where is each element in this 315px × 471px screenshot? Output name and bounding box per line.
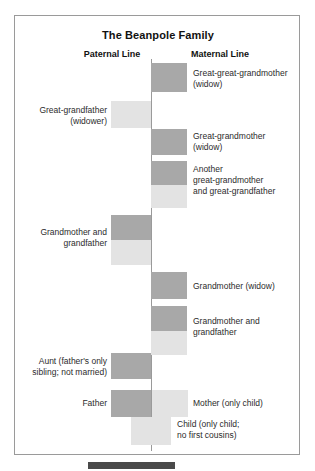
label-great-grandmother-line1: Great-grandmother	[193, 131, 305, 142]
label-paternal-grandparents-line2: grandfather	[15, 238, 107, 249]
label-father: Father	[15, 398, 107, 409]
bar-mother	[152, 390, 188, 417]
column-header-maternal: Maternal Line	[165, 49, 275, 59]
label-aunt-line2: sibling; not married)	[15, 367, 107, 378]
bar-another-great-grandmother	[151, 161, 187, 185]
label-another-line2: great-grandmother	[193, 175, 305, 186]
bar-paternal-grandmother	[111, 215, 151, 240]
label-grandmother-widow: Grandmother (widow)	[193, 281, 305, 292]
bar-great-great-grandmother	[151, 63, 187, 92]
label-great-great-grandmother-line2: (widow)	[193, 79, 305, 90]
column-header-paternal: Paternal Line	[57, 49, 167, 59]
label-another-line1: Another	[193, 164, 305, 175]
label-maternal-grandparents-line2: grandfather	[193, 327, 305, 338]
label-great-grandfather-line1: Great-grandfather	[15, 105, 107, 116]
label-mother: Mother (only child)	[193, 398, 305, 409]
bar-great-grandmother	[151, 129, 187, 155]
bar-maternal-grandfather	[151, 331, 187, 355]
page-title: The Beanpole Family	[15, 29, 301, 41]
label-great-great-grandmother-line1: Great-great-grandmother	[193, 68, 305, 79]
bar-aunt	[111, 353, 151, 379]
label-great-grandfather-line2: (widower)	[15, 116, 107, 127]
label-aunt-line1: Aunt (father's only	[15, 356, 107, 367]
bar-another-great-grandfather	[151, 185, 187, 208]
bottom-bar	[88, 462, 175, 469]
label-maternal-grandparents-line1: Grandmother and	[193, 316, 305, 327]
bar-paternal-grandfather	[111, 240, 151, 265]
label-child-line2: no first cousins)	[177, 430, 301, 441]
label-another-line3: and great-grandfather	[193, 186, 308, 197]
bar-maternal-grandmother-widow	[151, 272, 187, 299]
bar-father	[111, 390, 151, 417]
label-paternal-grandparents-line1: Grandmother and	[15, 227, 107, 238]
bar-child	[131, 417, 171, 445]
chart-frame: The Beanpole Family Paternal Line Matern…	[14, 15, 300, 455]
bar-great-grandfather	[111, 101, 151, 128]
label-child-line1: Child (only child;	[177, 419, 301, 430]
label-great-grandmother-line2: (widow)	[193, 142, 305, 153]
bar-maternal-grandmother	[151, 306, 187, 331]
